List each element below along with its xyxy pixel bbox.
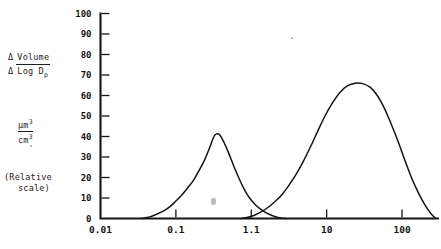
x-tick-label: 0.01 (89, 224, 112, 235)
x-tick-label: 100 (393, 224, 410, 235)
y-tick-label: 60 (81, 91, 92, 101)
scan-artifact (291, 37, 293, 39)
y-tick-label: 100 (75, 9, 91, 19)
x-axis-tick-labels: 0.010.11.110100 (89, 224, 411, 235)
y-tick-label: 0 (86, 214, 91, 224)
y-tick-label: 40 (81, 132, 92, 142)
chart-container: Δ Volume Δ Log Dp µm3 cm3 (Relative scal… (0, 0, 441, 249)
y-axis-tick-marks (102, 14, 110, 199)
y-tick-label: 20 (81, 173, 92, 183)
y-axis-tick-labels: 0102030405060708090100 (75, 9, 91, 224)
plot-area: 0102030405060708090100 0.010.11.110100 (0, 0, 441, 249)
y-tick-label: 90 (81, 29, 92, 39)
distribution-curve (242, 83, 436, 218)
data-curves (142, 83, 436, 219)
y-tick-label: 10 (81, 193, 92, 203)
distribution-curve (142, 134, 287, 219)
x-tick-label: 1.1 (243, 224, 260, 235)
y-tick-label: 50 (81, 111, 92, 121)
x-tick-label: 10 (321, 224, 333, 235)
y-tick-label: 80 (81, 50, 92, 60)
scan-artifact (30, 145, 32, 147)
y-tick-label: 30 (81, 152, 92, 162)
scan-artifact (211, 198, 216, 205)
x-tick-label: 0.1 (167, 224, 184, 235)
x-axis-tick-marks (176, 210, 402, 218)
y-tick-label: 70 (81, 70, 92, 80)
